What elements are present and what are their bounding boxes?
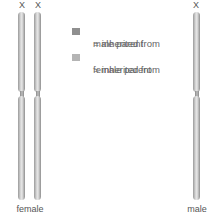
x-label-male: X xyxy=(191,0,201,10)
x-label-female-1: X xyxy=(17,0,27,10)
chromosome-long-arm xyxy=(18,96,25,200)
chromosome-short-arm xyxy=(34,12,41,92)
chromosome-long-arm xyxy=(34,96,41,200)
legend-line-2: female parent xyxy=(93,64,151,75)
chromosome-long-arm xyxy=(193,96,200,200)
female-x-chromosome-2 xyxy=(34,12,41,200)
chromosome-short-arm xyxy=(193,12,200,92)
male-x-chromosome xyxy=(193,12,200,200)
chromosome-short-arm xyxy=(18,12,25,92)
female-x-chromosome-1 xyxy=(18,12,25,200)
female-label: female xyxy=(10,204,50,214)
legend-swatch-dark xyxy=(72,28,80,35)
legend-swatch-light xyxy=(72,54,80,61)
x-label-female-2: X xyxy=(33,0,43,10)
legend-line-2: male parent xyxy=(93,38,143,49)
male-label: male xyxy=(181,204,213,214)
